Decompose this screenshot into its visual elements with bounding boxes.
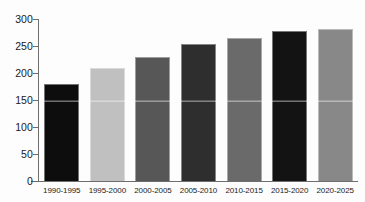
y-axis-tick-label-wrap: 200 <box>0 68 33 78</box>
y-axis-tick-label-wrap: 0 <box>0 176 33 186</box>
y-axis-tick-label-wrap: 100 <box>0 122 33 132</box>
bar <box>44 84 79 181</box>
y-axis-tick-label: 100 <box>3 122 33 132</box>
x-axis-tick-label: 2020-2025 <box>309 186 361 195</box>
y-axis-tick-label: 300 <box>3 14 33 24</box>
bar <box>135 57 170 181</box>
y-axis-tick-label-wrap: 250 <box>0 41 33 51</box>
bar <box>272 31 307 181</box>
x-axis-tick-label: 2015-2020 <box>264 186 316 195</box>
y-axis-tick-label: 0 <box>3 176 33 186</box>
x-axis-tick-label: 1990-1995 <box>36 186 88 195</box>
x-axis-tick-label: 2005-2010 <box>173 186 225 195</box>
x-axis-line <box>31 181 358 182</box>
x-axis-tick-label: 2000-2005 <box>127 186 179 195</box>
y-axis-tick-label: 50 <box>3 149 33 159</box>
bar-chart: 050100150200250300 1990-19951995-2000200… <box>0 0 365 202</box>
plot-area <box>39 19 358 181</box>
y-axis-tick-label: 150 <box>3 95 33 105</box>
x-axis-tick-label: 2010-2015 <box>218 186 270 195</box>
x-axis-tick-label: 1995-2000 <box>81 186 133 195</box>
y-axis-tick-label: 250 <box>3 41 33 51</box>
y-axis-tick-label: 200 <box>3 68 33 78</box>
y-axis-tick-label-wrap: 150 <box>0 95 33 105</box>
y-axis-tick-label-wrap: 50 <box>0 149 33 159</box>
bar <box>227 38 262 181</box>
bar <box>181 44 216 181</box>
bar <box>90 68 125 181</box>
y-axis-tick-label-wrap: 300 <box>0 14 33 24</box>
bar <box>318 29 353 181</box>
y-axis-tick <box>33 181 39 182</box>
